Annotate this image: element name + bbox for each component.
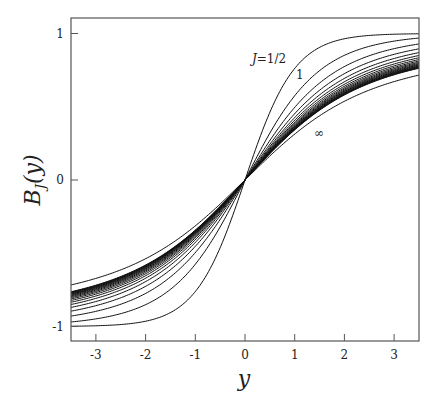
x-tick-label: -3	[90, 348, 102, 362]
y-axis-label: BJ(y)	[20, 155, 48, 207]
x-tick-label: 0	[241, 348, 249, 362]
x-tick-label: 1	[291, 348, 299, 362]
annotation-j-infinity: ∞	[314, 126, 324, 140]
y-axis-label-text: BJ(y)	[20, 155, 48, 207]
y-axis-ticks: -101	[52, 27, 78, 334]
x-tick-label: -1	[189, 348, 201, 362]
x-tick-label: 2	[341, 348, 349, 362]
x-tick-label: 3	[390, 348, 398, 362]
annotation-j-half: J=1/2	[249, 52, 286, 66]
curves-group	[71, 34, 419, 326]
x-axis-label: y	[237, 366, 251, 391]
y-label-main: B	[20, 189, 45, 206]
y-label-tail: (y)	[20, 155, 45, 185]
y-tick-label: 0	[56, 173, 64, 187]
x-axis-ticks: -3-2-10123	[90, 334, 398, 362]
annotation-j-one: 1	[296, 68, 304, 82]
y-tick-label: 1	[56, 27, 64, 41]
brillouin-chart: -3-2-10123 -101 y BJ(y) J=1/2 1 ∞	[0, 0, 434, 404]
x-tick-label: -2	[140, 348, 152, 362]
curve-J-inf	[71, 75, 419, 285]
y-tick-label: -1	[52, 320, 64, 334]
